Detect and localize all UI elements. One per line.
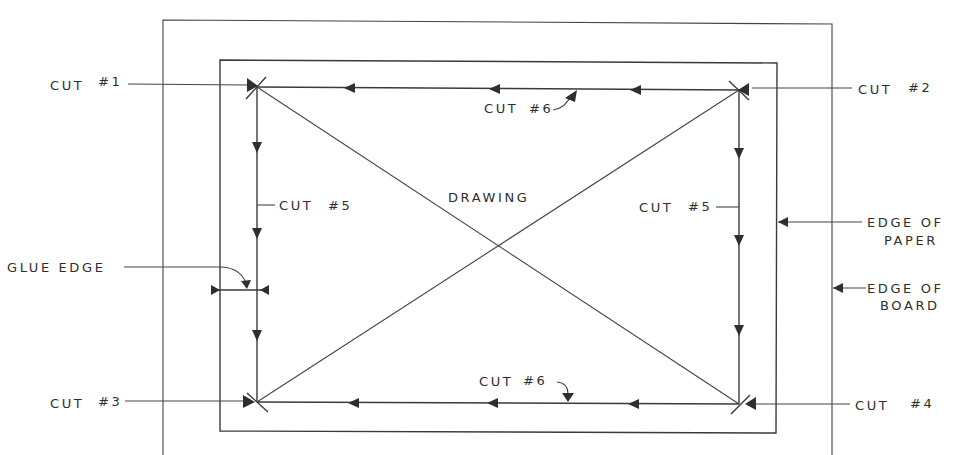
cut-1-label: CUT <box>50 78 84 93</box>
arrow-left-icon <box>348 398 359 408</box>
cut-3-number: #3 <box>98 394 122 409</box>
cutting-diagram: CUT #1 CUT #2 CUT #3 CUT #4 CUT #5 CUT #… <box>0 0 970 455</box>
arrow-down-icon <box>734 235 744 246</box>
cut-6-arrows <box>344 83 641 409</box>
arrow-down-icon <box>241 280 251 289</box>
cut-6-top-label: CUT <box>484 101 518 116</box>
arrow-left-icon <box>487 398 498 408</box>
arrow-left-icon <box>628 399 639 409</box>
cut-5-right-label: CUT <box>639 200 673 215</box>
cut-2-number: #2 <box>908 80 932 95</box>
arrow-up-icon <box>565 90 577 102</box>
edge-leaders <box>778 217 866 293</box>
edge-of-paper-label-line1: EDGE OF <box>867 215 944 230</box>
arrow-down-icon <box>562 393 574 402</box>
arrow-right-icon <box>243 395 255 408</box>
arrow-left-icon <box>833 283 843 293</box>
cut-1-number: #1 <box>98 74 122 89</box>
cut-6-top-number: #6 <box>529 101 553 116</box>
edge-of-board-label-line1: EDGE OF <box>867 281 944 296</box>
glue-edge-label: GLUE EDGE <box>7 260 105 275</box>
arrow-left-icon <box>344 83 355 93</box>
arrow-left-icon <box>260 285 269 295</box>
arrow-left-icon <box>630 85 641 95</box>
arrow-left-icon <box>778 217 788 227</box>
arrow-down-icon <box>734 148 744 159</box>
cut-5-left-number: #5 <box>328 198 352 213</box>
labels: CUT #1 CUT #2 CUT #3 CUT #4 CUT #5 CUT #… <box>7 74 944 413</box>
arrow-right-icon <box>211 285 220 295</box>
arrow-down-icon <box>734 325 744 336</box>
cut-6-leaders <box>553 90 577 402</box>
arrow-down-icon <box>252 330 262 341</box>
cut-6-bottom-number: #6 <box>523 373 547 388</box>
drawing-diagonals <box>257 87 739 404</box>
corner-leaders <box>125 84 852 404</box>
cut-4-label: CUT <box>855 398 889 413</box>
drawing-label: DRAWING <box>448 190 529 205</box>
edge-of-paper-label-line2: PAPER <box>884 233 938 248</box>
cut-5-left-label: CUT <box>279 198 313 213</box>
edge-of-board-label-line2: BOARD <box>880 298 940 313</box>
cut-5-arrows <box>252 142 744 341</box>
arrow-down-icon <box>252 142 262 153</box>
cut-5-right-number: #5 <box>688 199 712 214</box>
cut-6-bottom-label: CUT <box>479 374 513 389</box>
cut-4-number: #4 <box>910 396 934 411</box>
arrow-down-icon <box>252 228 262 239</box>
glue-edge-indicator <box>124 267 269 295</box>
arrow-left-icon <box>489 84 500 94</box>
cut-3-label: CUT <box>50 396 84 411</box>
cut-2-label: CUT <box>858 82 892 97</box>
